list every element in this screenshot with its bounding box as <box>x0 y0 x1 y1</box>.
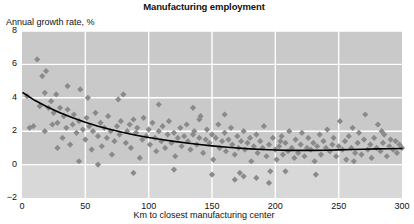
y-tick-label: 2 <box>1 125 17 135</box>
y-tick-label: 0 <box>1 159 17 169</box>
y-tick-label: 8 <box>1 25 17 35</box>
y-tick-label: 6 <box>1 58 17 68</box>
y-tick-label: 4 <box>1 92 17 102</box>
x-axis-label: Km to closest manufacturing center <box>0 210 408 220</box>
